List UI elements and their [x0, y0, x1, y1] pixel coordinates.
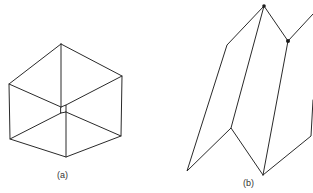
- cube-edge-lower-right: [66, 112, 121, 136]
- cube-edge-lower-left: [10, 113, 61, 139]
- cube-center-square: [61, 105, 66, 113]
- figure-b-folded-surface: [187, 4, 313, 175]
- fold-left-outline: [187, 6, 264, 175]
- fold-right-top: [264, 6, 313, 41]
- fold-ridge-left: [231, 6, 264, 128]
- vertex-dot-peak: [262, 4, 266, 8]
- cube-edge-upper-left: [9, 84, 61, 107]
- figure-a-cube: [9, 44, 122, 157]
- caption-a: (a): [57, 171, 68, 180]
- vertex-dot-right: [286, 39, 290, 43]
- fold-ridge-right: [263, 41, 288, 175]
- diagram-canvas: [0, 0, 313, 193]
- cube-edge-upper-right: [66, 76, 122, 105]
- caption-b: (b): [243, 179, 254, 188]
